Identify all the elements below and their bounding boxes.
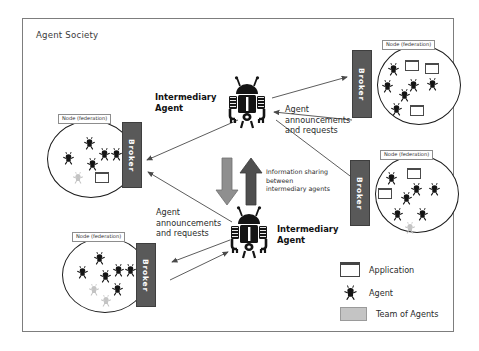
agent-icon <box>111 283 124 296</box>
broker-box[interactable]: Broker <box>122 122 142 188</box>
agent-icon <box>416 208 429 221</box>
intermediary-agent-bottom-caption: Intermediary Agent <box>277 224 338 246</box>
agent-icon <box>385 172 398 185</box>
information-sharing-label: Information sharing between intermediary… <box>266 168 330 194</box>
intermediary-agent-top-icon <box>224 76 270 132</box>
application-icon <box>95 172 109 183</box>
team-of-agents-icon <box>72 172 84 184</box>
application-icon <box>407 168 421 179</box>
application-icon <box>405 60 419 71</box>
agent-icon <box>99 270 112 283</box>
broker-box[interactable]: Broker <box>350 160 370 226</box>
agent-icon <box>381 80 394 93</box>
broker-label: Broker <box>358 67 367 100</box>
team-of-agents-icon <box>340 307 367 321</box>
announcements-left-label: Agent announcements and requests <box>156 207 221 239</box>
node-label: Node (federation) <box>382 40 435 50</box>
legend-label: Application <box>369 265 414 275</box>
application-icon <box>410 105 424 116</box>
legend-label: Team of Agents <box>376 309 439 319</box>
agent-icon-wrapper <box>340 284 360 302</box>
agent-icon <box>93 252 106 265</box>
agent-icon <box>343 285 358 301</box>
broker-label: Broker <box>128 138 137 171</box>
team-of-agents-icon <box>100 295 112 307</box>
broker-box[interactable]: Broker <box>136 243 156 307</box>
agent-icon <box>387 63 400 76</box>
team-of-agents-icon <box>88 284 100 296</box>
agent-icon <box>428 183 441 196</box>
broker-label: Broker <box>356 176 365 209</box>
legend-item-team-of-agents: Team of Agents <box>340 307 439 321</box>
diagram-canvas: Agent Society Node (federa <box>0 0 479 351</box>
legend: Application Agent Team of Agents <box>340 262 450 324</box>
broker-box[interactable]: Broker <box>352 50 372 118</box>
agent-icon <box>426 78 439 91</box>
team-of-agents-icon <box>404 222 416 234</box>
agent-icon <box>83 137 96 150</box>
legend-label: Agent <box>369 288 393 298</box>
agent-icon <box>62 152 75 165</box>
application-icon <box>425 63 439 74</box>
application-icon <box>340 262 360 277</box>
node-label: Node (federation) <box>380 150 433 160</box>
agent-icon <box>391 208 404 221</box>
intermediary-agent-top-caption: Intermediary Agent <box>155 92 216 114</box>
intermediary-agent-bottom-icon <box>226 206 272 262</box>
agent-icon <box>398 89 411 102</box>
agent-society-title: Agent Society <box>36 30 98 40</box>
application-icon <box>378 188 392 199</box>
node-label: Node (federation) <box>58 114 111 124</box>
agent-icon <box>390 103 403 116</box>
agent-icon <box>76 266 89 279</box>
agent-icon <box>400 192 413 205</box>
legend-item-application: Application <box>340 262 414 277</box>
broker-label: Broker <box>142 258 151 291</box>
node-label: Node (federation) <box>72 232 125 242</box>
legend-item-agent: Agent <box>340 284 393 302</box>
announcements-right-label: Agent announcements and requests <box>285 104 350 136</box>
